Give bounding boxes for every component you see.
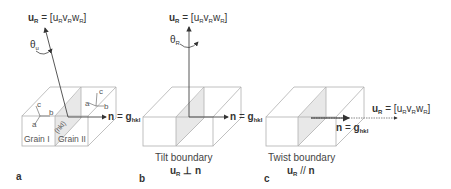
grain-2-label: Grain II bbox=[58, 135, 86, 144]
tilt-relation: uR ⊥ n bbox=[170, 166, 201, 177]
panel-c-bicrystal bbox=[266, 87, 364, 146]
axis-a-grain-1: a bbox=[32, 121, 36, 129]
rotation-angle-label-b: θR bbox=[170, 35, 180, 46]
axis-a-grain-2: a bbox=[85, 100, 89, 108]
rotation-axis-arrow-a bbox=[45, 28, 68, 117]
normal-label-a: n = ghkl bbox=[108, 112, 140, 123]
rotation-axis-label-a: uR = [uRvRwR] bbox=[28, 13, 86, 24]
panel-label-a: a bbox=[16, 172, 22, 182]
twist-relation: uR // n bbox=[287, 166, 315, 177]
normal-label-b: n = ghkl bbox=[230, 112, 262, 123]
rotation-axis-label-c: uR = [uRvRwR] bbox=[372, 104, 430, 115]
axis-c-grain-2: c bbox=[99, 88, 103, 96]
panel-label-b: b bbox=[139, 174, 145, 184]
axis-b-grain-2: b bbox=[104, 103, 108, 111]
tilt-boundary-caption: Tilt boundary bbox=[155, 153, 212, 163]
panel-label-c: c bbox=[264, 174, 270, 184]
panel-b-bicrystal bbox=[143, 87, 241, 146]
grain-1-label: Grain I bbox=[24, 135, 50, 144]
axis-c-grain-1: c bbox=[37, 101, 41, 109]
normal-label-c: n = ghkl bbox=[336, 123, 368, 134]
rotation-angle-label-a: θu bbox=[30, 40, 39, 51]
rotation-axis-label-b: uR = [uRvRwR] bbox=[169, 13, 227, 24]
axis-b-grain-1: b bbox=[49, 109, 53, 117]
twist-boundary-caption: Twist boundary bbox=[268, 153, 335, 163]
diagram-canvas bbox=[0, 0, 451, 189]
